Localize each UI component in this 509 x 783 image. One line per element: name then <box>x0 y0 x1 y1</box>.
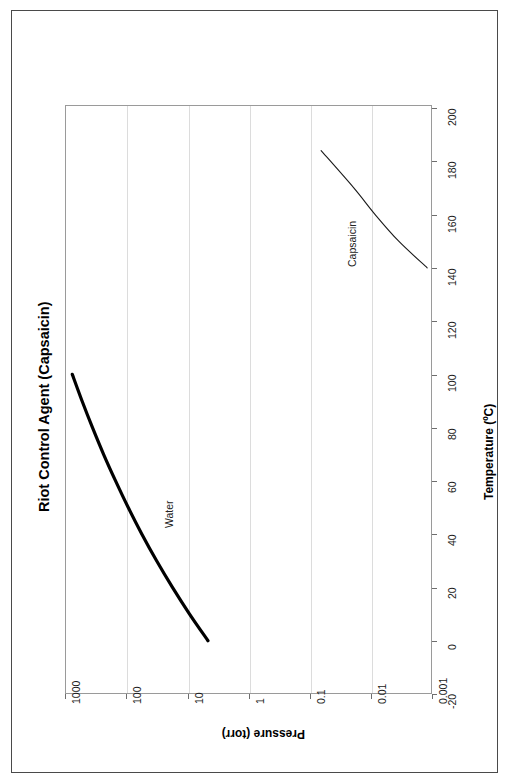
tick-temperature-200 <box>432 108 437 109</box>
tick-label-temperature-120: 120 <box>446 321 458 339</box>
tick-label-temperature-20: 20 <box>446 587 458 599</box>
gridline-pressure-0.1 <box>311 106 312 693</box>
tick-label-pressure-0.1: 0.1 <box>315 689 327 704</box>
temperature-axis-title: Temperature (ºC) <box>482 404 496 500</box>
tick-label-pressure-1: 1 <box>254 698 266 704</box>
tick-temperature-80 <box>432 428 437 429</box>
tick-temperature-0 <box>432 641 437 642</box>
tick-pressure-100 <box>126 694 127 699</box>
tick-label-pressure-1000: 1000 <box>70 681 82 704</box>
tick-temperature-140 <box>432 268 437 269</box>
vapor-pressure-chart: 1000 100 10 1 0.1 0.01 0.001 -20 0 20 40… <box>0 0 509 783</box>
tick-pressure-0.01 <box>371 694 372 699</box>
tick-label-temperature-100: 100 <box>446 374 458 392</box>
tick-pressure-1 <box>249 694 250 699</box>
tick-pressure-10 <box>188 694 189 699</box>
tick-label-temperature-140: 140 <box>446 268 458 286</box>
tick-label-temperature-80: 80 <box>446 428 458 440</box>
series-label-capsaicin: Capsaicin <box>346 221 358 267</box>
tick-temperature-20 <box>432 588 437 589</box>
tick-label-temperature-200: 200 <box>446 108 458 126</box>
tick-label-temperature-0: 0 <box>446 644 458 650</box>
plot-area <box>65 105 432 694</box>
tick-pressure-1000 <box>65 694 66 699</box>
tick-temperature-100 <box>432 375 437 376</box>
gridline-pressure-1 <box>250 106 251 693</box>
tick-label-pressure-10: 10 <box>193 692 205 704</box>
chart-page: 1000 100 10 1 0.1 0.01 0.001 -20 0 20 40… <box>0 0 509 783</box>
tick-label-temperature--20: -20 <box>446 694 458 709</box>
gridline-pressure-0.01 <box>372 106 373 693</box>
tick-temperature-180 <box>432 161 437 162</box>
tick-temperature-60 <box>432 481 437 482</box>
tick-label-temperature-40: 40 <box>446 534 458 546</box>
gridline-pressure-10 <box>189 106 190 693</box>
tick-temperature-40 <box>432 534 437 535</box>
tick-temperature--20 <box>432 694 437 695</box>
chart-title: Riot Control Agent (Capsaicin) <box>36 301 52 512</box>
gridline-pressure-100 <box>127 106 128 693</box>
tick-label-pressure-0.01: 0.01 <box>376 684 388 704</box>
tick-label-pressure-100: 100 <box>131 686 143 704</box>
tick-label-temperature-60: 60 <box>446 481 458 493</box>
pressure-axis-title: Pressure (torr) <box>222 727 305 741</box>
tick-pressure-0.1 <box>310 694 311 699</box>
tick-temperature-160 <box>432 215 437 216</box>
series-label-water: Water <box>163 500 175 528</box>
tick-temperature-120 <box>432 321 437 322</box>
tick-label-temperature-160: 160 <box>446 215 458 233</box>
tick-label-temperature-180: 180 <box>446 161 458 179</box>
